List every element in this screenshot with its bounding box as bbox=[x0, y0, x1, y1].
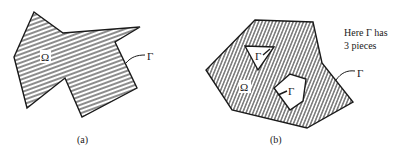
gamma-label-a: Γ bbox=[147, 50, 153, 62]
omega-label-a: Ω bbox=[41, 51, 49, 63]
boundary-diagram: Ω Γ (a) Γ Γ Ω Γ Here Γ has 3 pieces (b) bbox=[0, 0, 407, 153]
panel-a: Ω Γ (a) bbox=[14, 12, 153, 146]
gamma-label-b: Γ bbox=[357, 67, 363, 79]
gamma-leader-pentagon bbox=[278, 91, 287, 95]
gamma-label-pentagon-hole: Γ bbox=[288, 85, 294, 97]
domain-omega-a bbox=[14, 12, 140, 117]
panel-b: Γ Γ Ω Γ Here Γ has 3 pieces (b) bbox=[206, 20, 388, 146]
note-line-2: 3 pieces bbox=[344, 40, 377, 51]
note-line-1: Here Γ has bbox=[344, 27, 388, 38]
caption-b: (b) bbox=[270, 134, 282, 146]
omega-label-b: Ω bbox=[240, 81, 248, 93]
caption-a: (a) bbox=[77, 134, 88, 146]
gamma-leader-a bbox=[126, 55, 145, 63]
gamma-label-triangle-hole: Γ bbox=[255, 50, 261, 62]
gamma-leader-b bbox=[336, 71, 355, 80]
domain-omega-b bbox=[206, 20, 353, 128]
